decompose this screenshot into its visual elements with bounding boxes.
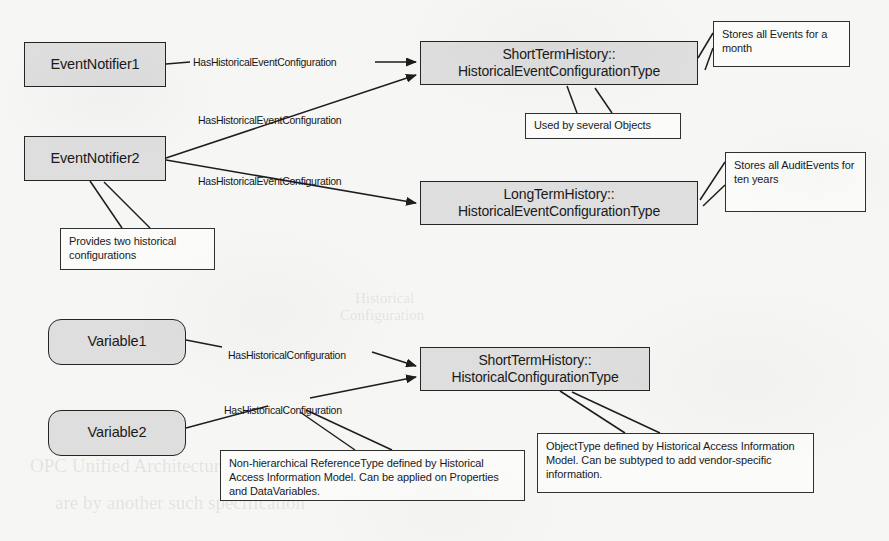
node-label: Variable2 — [84, 424, 151, 441]
edge-en1-to-short-term — [166, 62, 190, 64]
leader-ref-to-note-nonhier — [300, 412, 355, 450]
note-objecttype-defined-by-ham: ObjectType defined by Historical Access … — [537, 433, 814, 493]
leader-en2-to-note-provides-2 — [104, 182, 150, 228]
node-label: Variable1 — [84, 333, 151, 350]
edge-label-has-historical-configuration-1: HasHistoricalConfiguration — [228, 349, 346, 361]
edge-label-has-historical-configuration-2: HasHistoricalConfiguration — [224, 404, 342, 416]
leader-en2-to-note-provides — [90, 181, 122, 228]
edge-var2-to-config-arrow — [310, 377, 416, 398]
leader-long-term-to-note-audit-2 — [703, 185, 725, 206]
leader-long-term-to-note-audit — [700, 162, 725, 200]
leader-short-term-to-note-used-by — [567, 86, 577, 113]
edge-label-has-historical-event-configuration-2: HasHistoricalEventConfiguration — [198, 114, 341, 126]
node-long-term-history-event-config-type[interactable]: LongTermHistory:: HistoricalEventConfigu… — [420, 181, 698, 225]
node-variable-1[interactable]: Variable1 — [48, 319, 186, 365]
node-short-term-history-config-type[interactable]: ShortTermHistory:: HistoricalConfigurati… — [420, 347, 650, 391]
diagram-canvas: HistoricalConfigurationOPC Unified Archi… — [0, 0, 889, 541]
node-label: LongTermHistory:: HistoricalEventConfigu… — [454, 186, 664, 219]
leader-ref-to-note-nonhier-2 — [306, 410, 392, 450]
edge-var1-to-config-arrow — [372, 352, 416, 366]
node-label: EventNotifier1 — [47, 56, 144, 73]
node-label: EventNotifier2 — [47, 150, 144, 167]
node-short-term-history-event-config-type[interactable]: ShortTermHistory:: HistoricalEventConfig… — [420, 41, 698, 85]
node-label: ShortTermHistory:: HistoricalConfigurati… — [447, 352, 622, 385]
node-variable-2[interactable]: Variable2 — [48, 410, 186, 456]
note-used-by-several-objects: Used by several Objects — [525, 113, 681, 139]
leader-short-term-to-note-events-2 — [705, 48, 713, 70]
node-event-notifier-1[interactable]: EventNotifier1 — [24, 42, 166, 87]
edge-var1-to-config — [186, 340, 222, 347]
edge-label-has-historical-event-configuration-1: HasHistoricalEventConfiguration — [193, 56, 336, 68]
note-provides-two-historical-configurations: Provides two historical configurations — [60, 228, 215, 270]
node-label: ShortTermHistory:: HistoricalEventConfig… — [454, 46, 664, 79]
node-event-notifier-2[interactable]: EventNotifier2 — [24, 136, 166, 181]
note-stores-all-auditevents: Stores all AuditEvents for ten years — [725, 152, 866, 212]
edge-label-has-historical-event-configuration-3: HasHistoricalEventConfiguration — [198, 175, 341, 187]
note-stores-all-events: Stores all Events for a month — [713, 21, 850, 67]
leader-short-term-to-note-used-by-2 — [595, 88, 612, 113]
note-non-hierarchical-referencetype: Non-hierarchical ReferenceType defined b… — [220, 450, 525, 501]
